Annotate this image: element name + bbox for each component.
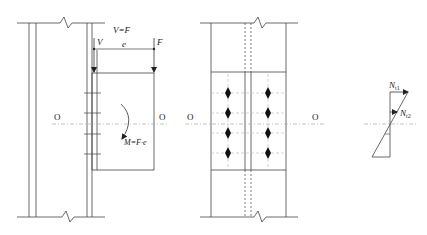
label-nt2: Nt2 — [399, 108, 411, 119]
bolt — [225, 147, 231, 159]
axis-label-o: O — [54, 112, 61, 122]
axis-label-o: O — [159, 112, 166, 122]
label-f: F — [156, 37, 163, 47]
bolt — [265, 107, 271, 119]
label-v: V — [97, 37, 104, 47]
bolt-ticks — [84, 93, 101, 154]
bolt-gauge-lines — [211, 74, 286, 168]
left-view-elevation: V=F V F e M=F·e O O — [17, 17, 168, 222]
bolt — [225, 127, 231, 139]
label-moment: M=F·e — [123, 138, 147, 147]
bolt-tension-distribution: Nt1 Nt2 — [364, 80, 416, 157]
bolt — [225, 87, 231, 99]
bracket-plate — [92, 73, 154, 170]
label-nt1: Nt1 — [388, 80, 400, 91]
break-line-top — [200, 17, 298, 28]
bolt-group — [225, 87, 271, 159]
bolt — [225, 107, 231, 119]
moment-arrow — [121, 104, 129, 139]
bolt — [265, 127, 271, 139]
bolt — [265, 147, 271, 159]
bolted-connection-diagram: V=F V F e M=F·e O O — [0, 0, 427, 235]
axis-label-o: O — [312, 112, 319, 122]
axis-label-o: O — [187, 112, 194, 122]
bolt — [265, 87, 271, 99]
break-line-bottom — [200, 211, 298, 222]
middle-view-front: O O — [185, 17, 325, 222]
label-e: e — [122, 39, 126, 49]
label-v-equals-f: V=F — [113, 25, 131, 35]
